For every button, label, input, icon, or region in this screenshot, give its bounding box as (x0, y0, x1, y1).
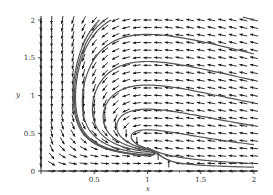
arrow-head (186, 41, 189, 44)
arrow-head (144, 41, 147, 44)
arrow-head (144, 71, 147, 74)
arrow-head (61, 89, 64, 92)
arrow-head (50, 44, 53, 47)
arrow-head (197, 101, 200, 104)
arrow-head (144, 26, 147, 29)
arrow-head (50, 111, 53, 114)
y-axis-label: y (15, 91, 21, 99)
arrow-head (61, 119, 64, 122)
arrow-head (154, 79, 157, 82)
y-tick-label: 0.5 (24, 130, 35, 138)
arrow-head (116, 162, 119, 165)
arrow-head (186, 18, 189, 21)
arrow-head (50, 96, 53, 99)
x-tick-label: 0.5 (89, 176, 100, 184)
y-tick-label: 2 (31, 17, 35, 25)
arrow-head (144, 132, 147, 135)
arrow-head (144, 49, 147, 52)
y-tick-label: 0 (31, 168, 35, 176)
x-axis-ticks: 0.511.52 (41, 171, 256, 184)
arrow-head (186, 71, 189, 74)
arrow-head (138, 162, 141, 165)
arrow-head (149, 162, 152, 165)
arrow-head (61, 74, 64, 77)
arrow-head (61, 104, 64, 107)
trajectory-curve (82, 34, 254, 153)
arrow-head (229, 101, 232, 104)
arrow-head (218, 162, 221, 165)
arrow-head (154, 94, 157, 97)
arrow-head (50, 59, 53, 62)
arrow-head (207, 162, 210, 165)
arrow-head (154, 19, 157, 22)
arrow-head (154, 102, 157, 105)
arrow-head (51, 141, 54, 144)
arrow-head (218, 101, 221, 104)
arrow-head (239, 109, 242, 112)
arrow-head (229, 154, 232, 157)
arrow-head (71, 21, 74, 24)
trajectory-curve (148, 148, 255, 167)
arrow-head (50, 51, 53, 54)
arrow-head (186, 86, 189, 89)
arrow-head (186, 34, 189, 37)
arrow-head (122, 79, 125, 82)
arrow-head (127, 162, 130, 165)
arrow-head (154, 64, 157, 67)
arrow-head (61, 96, 64, 99)
arrow-head (144, 87, 147, 90)
arrow-head (106, 162, 109, 165)
arrow-head (154, 147, 157, 150)
arrow-head (82, 66, 85, 69)
arrow-head (84, 155, 87, 158)
arrow-head (229, 109, 232, 112)
arrow-head (122, 95, 125, 98)
arrow-head (250, 154, 253, 157)
arrow-head (207, 109, 210, 112)
arrow-head (186, 49, 189, 52)
arrow-head (61, 81, 64, 84)
arrow-head (239, 101, 242, 104)
arrow-head (154, 41, 157, 44)
arrow-head (144, 139, 147, 142)
y-axis-ticks: 00.511.52 (24, 17, 41, 176)
arrow-head (50, 21, 53, 24)
arrow-head (144, 102, 147, 105)
y-tick-label: 1.5 (24, 54, 35, 62)
arrow-head (250, 109, 253, 112)
x-axis-label: x (146, 185, 150, 193)
arrow-head (144, 64, 147, 67)
arrow-head (159, 162, 162, 165)
arrow-head (82, 58, 85, 61)
arrow-head (154, 26, 157, 29)
arrow-head (186, 26, 189, 29)
arrow-head (197, 94, 200, 97)
arrow-head (144, 56, 147, 59)
solution-curves (73, 17, 254, 167)
arrow-head (218, 117, 221, 120)
arrow-head (154, 117, 157, 120)
arrow-head (61, 66, 64, 69)
direction-field-plot: 0.511.52 00.511.52 x y (0, 0, 273, 195)
arrow-head (71, 58, 74, 61)
arrow-head (50, 89, 53, 92)
arrow-head (144, 94, 147, 97)
trajectory-curve (92, 62, 254, 152)
arrow-head (50, 66, 53, 69)
arrow-head (154, 49, 157, 52)
arrow-head (186, 56, 189, 59)
arrow-head (218, 109, 221, 112)
arrow-head (144, 124, 147, 127)
arrow-head (197, 86, 200, 89)
arrow-head (50, 28, 53, 31)
arrow-head (144, 117, 147, 120)
arrow-head (207, 101, 210, 104)
arrow-head (144, 79, 147, 82)
arrow-head (50, 104, 53, 107)
arrow-head (197, 109, 200, 112)
arrow-head (154, 56, 157, 59)
x-tick-label: 2 (252, 176, 256, 184)
arrow-head (186, 79, 189, 82)
arrow-head (125, 134, 128, 137)
arrow-head (239, 154, 242, 157)
